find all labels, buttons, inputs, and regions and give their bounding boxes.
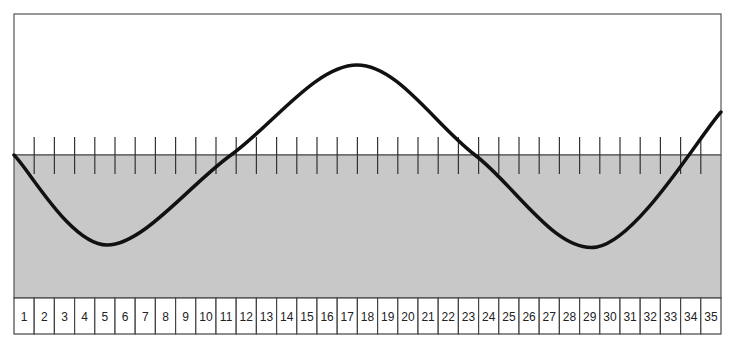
cell-number: 30 — [603, 310, 617, 324]
cell-number: 15 — [300, 310, 314, 324]
cell-number: 6 — [122, 310, 129, 324]
cell-number: 19 — [381, 310, 395, 324]
cell-number: 23 — [462, 310, 476, 324]
cell-number: 22 — [442, 310, 456, 324]
sky-region — [14, 14, 721, 155]
cell-number: 3 — [61, 310, 68, 324]
cell-number: 11 — [220, 310, 233, 324]
cell-number: 12 — [240, 310, 254, 324]
cell-number: 26 — [522, 310, 536, 324]
cell-number: 31 — [623, 310, 637, 324]
cell-number: 1 — [21, 310, 28, 324]
cell-number: 18 — [361, 310, 375, 324]
cell-number: 25 — [502, 310, 516, 324]
cell-number: 4 — [81, 310, 88, 324]
cell-number: 2 — [41, 310, 48, 324]
cell-number: 16 — [320, 310, 334, 324]
numbered-cell-row: 1234567891011121314151617181920212223242… — [14, 298, 721, 334]
cell-number: 9 — [182, 310, 189, 324]
cell-number: 20 — [401, 310, 415, 324]
cell-number: 35 — [704, 310, 718, 324]
cell-number: 24 — [482, 310, 496, 324]
cell-number: 33 — [664, 310, 678, 324]
wave-diagram: 1234567891011121314151617181920212223242… — [0, 0, 733, 347]
cell-number: 14 — [280, 310, 294, 324]
cell-number: 10 — [199, 310, 213, 324]
cell-number: 13 — [260, 310, 274, 324]
cell-number: 7 — [142, 310, 149, 324]
cell-number: 34 — [684, 310, 698, 324]
cell-number: 29 — [583, 310, 597, 324]
water-region — [14, 155, 721, 298]
cell-number: 8 — [162, 310, 169, 324]
cell-number: 28 — [563, 310, 577, 324]
cell-number: 32 — [644, 310, 658, 324]
cell-number: 5 — [102, 310, 109, 324]
cell-number: 17 — [341, 310, 355, 324]
cell-number: 21 — [421, 310, 435, 324]
cell-number: 27 — [543, 310, 557, 324]
